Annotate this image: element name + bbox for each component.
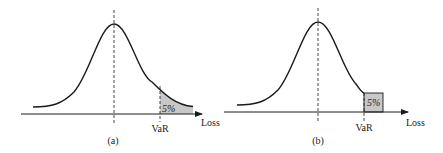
- panel-b: 5% VaR Loss (b): [224, 8, 425, 147]
- panel-caption: (b): [312, 135, 324, 147]
- tail-percent-label: 5%: [367, 97, 380, 108]
- loss-distribution-curve: [237, 22, 364, 105]
- loss-distribution-curve: [33, 24, 193, 107]
- var-label: VaR: [151, 123, 169, 134]
- var-diagram: 5% VaR Loss (a) 5% VaR Loss (b): [0, 0, 443, 153]
- panel-caption: (a): [107, 135, 118, 147]
- loss-axis-label: Loss: [406, 117, 425, 128]
- var-label: VaR: [355, 122, 373, 133]
- loss-axis-label: Loss: [201, 117, 220, 128]
- tail-percent-label: 5%: [162, 103, 175, 114]
- panel-a: 5% VaR Loss (a): [21, 10, 220, 147]
